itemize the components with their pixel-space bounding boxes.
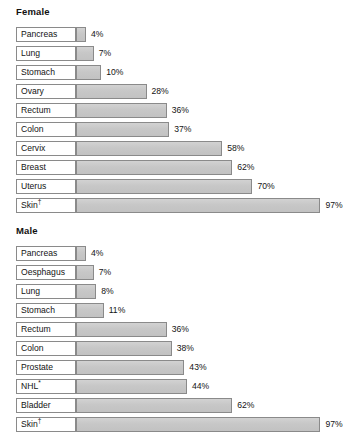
bar-row: Lung7% [0,46,362,65]
bar-fill [76,303,104,318]
bar-value-label: 97% [325,417,342,432]
bar-value-label: 36% [172,103,189,118]
bar-row-label: Ovary [16,84,76,99]
bar-value-label: 62% [237,398,254,413]
bar-row: Stomach10% [0,65,362,84]
bar-row: Colon37% [0,122,362,141]
bar-row: Stomach11% [0,303,362,322]
bar-row: Skin†97% [0,417,362,436]
bar-row-label: Stomach [16,303,76,318]
bar-fill [76,265,94,280]
bar-row: Oesphagus7% [0,265,362,284]
bar-row-label: Breast [16,160,76,175]
bar-row-label: Oesphagus [16,265,76,280]
bar-row-label: Bladder [16,398,76,413]
chart-male-title: Male [16,225,38,236]
bar-row-label: Stomach [16,65,76,80]
bar-value-label: 43% [189,360,206,375]
chart-male-rows: Pancreas4%Oesphagus7%Lung8%Stomach11%Rec… [0,246,362,436]
bar-row: Breast62% [0,160,362,179]
bar-fill [76,379,187,394]
bar-fill [76,46,94,61]
bar-row-label: Pancreas [16,27,76,42]
bar-row: Prostate43% [0,360,362,379]
bar-fill [76,65,101,80]
bar-fill [76,27,86,42]
bar-row: Ovary28% [0,84,362,103]
bar-fill [76,246,86,261]
bar-value-label: 7% [99,46,111,61]
bar-row: Skin†97% [0,198,362,217]
bar-row-label: NHL* [16,379,76,394]
bar-fill [76,179,252,194]
bar-row-label: Pancreas [16,246,76,261]
bar-row-label: Uterus [16,179,76,194]
bar-row: Cervix58% [0,141,362,160]
bar-row: Lung8% [0,284,362,303]
bar-fill [76,322,167,337]
chart-female-rows: Pancreas4%Lung7%Stomach10%Ovary28%Rectum… [0,27,362,217]
bar-row-label: Lung [16,46,76,61]
bar-fill [76,122,169,137]
bar-row: Pancreas4% [0,27,362,46]
bar-row-label: Colon [16,341,76,356]
bar-value-label: 44% [192,379,209,394]
bar-value-label: 28% [152,84,169,99]
bar-value-label: 58% [227,141,244,156]
bar-value-label: 97% [325,198,342,213]
bar-row-label: Colon [16,122,76,137]
bar-value-label: 11% [109,303,126,318]
chart-female-title: Female [16,6,50,17]
bar-value-label: 4% [91,27,103,42]
bar-fill [76,103,167,118]
bar-value-label: 4% [91,246,103,261]
bar-fill [76,160,232,175]
bar-fill [76,417,320,432]
bar-value-label: 10% [106,65,123,80]
bar-value-label: 7% [99,265,111,280]
bar-row: Colon38% [0,341,362,360]
bar-row-label: Cervix [16,141,76,156]
bar-value-label: 36% [172,322,189,337]
bar-row: Bladder62% [0,398,362,417]
bar-fill [76,84,147,99]
bar-row-label: Rectum [16,103,76,118]
bar-value-label: 37% [174,122,191,137]
bar-value-label: 38% [177,341,194,356]
bar-row: Pancreas4% [0,246,362,265]
bar-row-label: Rectum [16,322,76,337]
bar-row: Uterus70% [0,179,362,198]
bar-row-label: Lung [16,284,76,299]
bar-fill [76,360,184,375]
bar-value-label: 8% [101,284,113,299]
bar-value-label: 70% [257,179,274,194]
bar-fill [76,341,172,356]
bar-fill [76,141,222,156]
bar-row: NHL*44% [0,379,362,398]
bar-row-label: Prostate [16,360,76,375]
bar-row-label: Skin† [16,417,76,432]
bar-row: Rectum36% [0,322,362,341]
bar-row-label: Skin† [16,198,76,213]
bar-value-label: 62% [237,160,254,175]
bar-fill [76,198,320,213]
bar-row: Rectum36% [0,103,362,122]
bar-fill [76,284,96,299]
bar-fill [76,398,232,413]
